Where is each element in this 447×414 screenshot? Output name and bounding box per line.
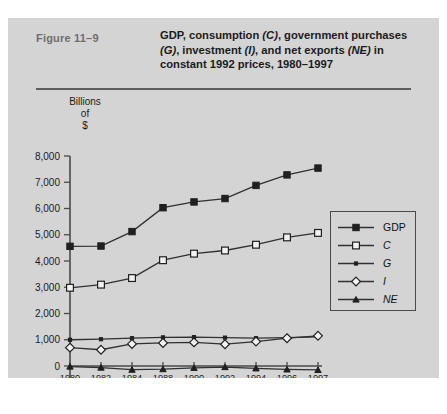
legend-marker-icon [336, 290, 376, 309]
data-point-marker [67, 284, 74, 291]
legend-item-gdp[interactable]: GDP [331, 218, 415, 237]
series-c [67, 230, 322, 292]
series-ne [67, 364, 321, 373]
series-i [66, 331, 323, 354]
data-point-marker [129, 275, 136, 282]
data-point-marker [221, 340, 230, 349]
legend-label: I [383, 275, 386, 287]
x-tick-label: 1997 [308, 373, 328, 378]
data-point-marker [253, 182, 259, 188]
legend-item-i[interactable]: I [331, 272, 415, 291]
data-point-marker [191, 250, 198, 257]
legend-item-ne[interactable]: NE [331, 290, 415, 309]
data-point-marker [190, 338, 199, 347]
data-point-marker [97, 345, 106, 354]
x-tick-label: 1990 [184, 373, 204, 378]
data-point-marker [222, 247, 229, 254]
data-point-marker [352, 277, 361, 286]
y-tick-label: 0 [54, 361, 60, 372]
data-point-marker [222, 195, 228, 201]
y-tick-label: 6,000 [35, 203, 60, 214]
data-point-marker [160, 205, 166, 211]
data-point-marker [66, 343, 75, 352]
data-point-marker [67, 243, 73, 249]
x-tick-label: 1982 [91, 373, 111, 378]
data-point-marker [98, 281, 105, 288]
legend-marker-icon [336, 272, 376, 291]
y-axis-ticks: 8,0007,0006,0005,0004,0003,0002,0001,000… [29, 151, 70, 379]
x-tick-label: 1988 [153, 373, 173, 378]
chart-svg: 8,0007,0006,0005,0004,0003,0002,0001,000… [8, 18, 439, 378]
legend-label: G [383, 257, 391, 269]
data-point-marker [284, 234, 291, 241]
data-point-marker [160, 257, 167, 264]
data-point-marker [159, 339, 168, 348]
data-point-marker [253, 241, 260, 248]
x-tick-label: 1996 [277, 373, 297, 378]
data-point-marker [98, 243, 104, 249]
legend-item-c[interactable]: C [331, 236, 415, 255]
data-point-marker [315, 230, 322, 237]
x-tick-label: 1994 [246, 373, 266, 378]
y-tick-label: 3,000 [35, 282, 60, 293]
data-point-marker [99, 338, 102, 341]
data-point-marker [315, 165, 321, 171]
data-point-marker [68, 338, 71, 341]
legend-marker-icon [336, 236, 376, 255]
data-point-marker [314, 331, 323, 340]
data-point-marker [128, 340, 137, 349]
figure-card: Figure 11–9 GDP, consumption (C), govern… [8, 18, 439, 378]
y-tick-label: 7,000 [35, 177, 60, 188]
legend-marker-icon [336, 218, 376, 237]
data-point-marker [129, 228, 135, 234]
legend-marker-icon [336, 254, 376, 273]
data-point-marker [191, 199, 197, 205]
y-tick-label: 4,000 [35, 256, 60, 267]
y-tick-label: 5,000 [35, 229, 60, 240]
data-point-marker [283, 334, 292, 343]
data-point-marker [353, 224, 359, 230]
series-line [70, 233, 318, 288]
x-tick-label: 1984 [122, 373, 142, 378]
data-series-layer [66, 165, 323, 373]
y-tick-label: 8,000 [35, 151, 60, 162]
series-line [70, 168, 318, 246]
data-point-marker [353, 242, 360, 249]
y-tick-label: 2,000 [35, 308, 60, 319]
data-point-marker [354, 262, 357, 265]
legend-label: C [383, 239, 391, 251]
legend-label: NE [383, 293, 398, 305]
chart-legend: GDPCGINE [330, 211, 416, 311]
data-point-marker [284, 172, 290, 178]
legend-item-g[interactable]: G [331, 254, 415, 273]
x-tick-label: 1992 [215, 373, 235, 378]
legend-label: GDP [383, 221, 406, 233]
data-point-marker [223, 336, 226, 339]
y-tick-label: 1,000 [35, 334, 60, 345]
plot-area: 8,0007,0006,0005,0004,0003,0002,0001,000… [8, 18, 439, 378]
